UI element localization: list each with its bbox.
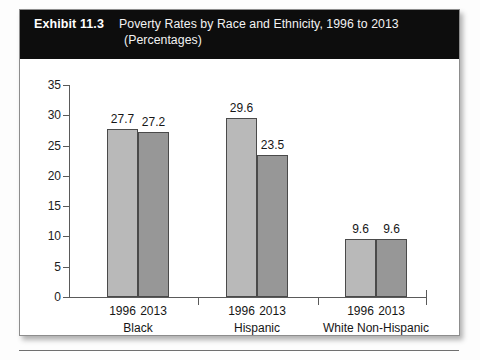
bar-black-2013 — [138, 132, 169, 297]
y-axis-tick-label: 20 — [27, 170, 61, 182]
y-axis-tick-label: 0 — [27, 291, 61, 303]
x-axis-line — [69, 297, 427, 298]
y-axis-tick-label: 35 — [27, 79, 61, 91]
x-axis-year-label: 2013 — [132, 305, 175, 317]
exhibit-header-line: Exhibit 11.3 Poverty Rates by Race and E… — [34, 17, 445, 31]
x-axis-end-tick — [426, 290, 427, 298]
bar-white-non-hispanic-1996 — [345, 239, 376, 297]
bar-value-label: 9.6 — [370, 223, 413, 235]
chart-plot-area: 35302520151050 27.727.229.623.59.69.6 19… — [20, 59, 461, 336]
exhibit-subtitle: (Percentages) — [124, 33, 445, 47]
x-axis-year-label: 2013 — [251, 305, 294, 317]
bar-hispanic-2013 — [257, 155, 288, 297]
page-background: Exhibit 11.3 Poverty Rates by Race and E… — [0, 0, 480, 360]
bar-value-label: 29.6 — [220, 102, 263, 114]
y-axis-tick — [63, 146, 69, 147]
x-axis-year-label: 2013 — [370, 305, 413, 317]
bar-value-label: 27.2 — [132, 116, 175, 128]
y-axis-tick-label: 15 — [27, 200, 61, 212]
x-axis-group-separator — [318, 298, 319, 305]
y-axis-tick — [63, 297, 69, 298]
exhibit-header: Exhibit 11.3 Poverty Rates by Race and E… — [20, 10, 459, 59]
y-axis-tick-label: 25 — [27, 140, 61, 152]
y-axis-tick-label: 5 — [27, 261, 61, 273]
y-axis-tick — [63, 115, 69, 116]
exhibit-card: Exhibit 11.3 Poverty Rates by Race and E… — [19, 9, 460, 336]
page-divider-rule — [19, 350, 459, 351]
y-axis-line — [69, 85, 70, 298]
y-axis-tick — [63, 176, 69, 177]
x-axis-category-label: White Non-Hispanic — [286, 322, 466, 334]
exhibit-title: Poverty Rates by Race and Ethnicity, 199… — [119, 17, 399, 31]
y-axis-tick-labels: 35302520151050 — [20, 59, 61, 336]
y-axis-tick — [63, 236, 69, 237]
y-axis-tick — [63, 267, 69, 268]
bar-white-non-hispanic-2013 — [376, 239, 407, 297]
x-axis-group-separator — [426, 298, 427, 305]
y-axis-tick-label: 30 — [27, 109, 61, 121]
y-axis-tick — [63, 206, 69, 207]
bar-black-1996 — [107, 129, 138, 297]
x-axis-group-separator — [198, 298, 199, 305]
bar-value-label: 23.5 — [251, 139, 294, 151]
y-axis-tick — [63, 85, 69, 86]
y-axis-tick-label: 10 — [27, 230, 61, 242]
exhibit-number: Exhibit 11.3 — [34, 17, 104, 31]
